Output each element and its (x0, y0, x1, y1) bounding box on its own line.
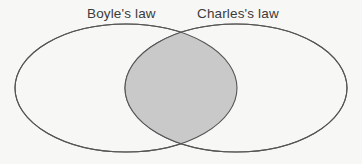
venn-diagram-canvas (0, 0, 362, 164)
set-left-label: Boyle's law (87, 7, 156, 21)
venn-diagram-figure: Boyle's law Charles's law (0, 0, 362, 164)
set-right-label: Charles's law (197, 7, 279, 21)
